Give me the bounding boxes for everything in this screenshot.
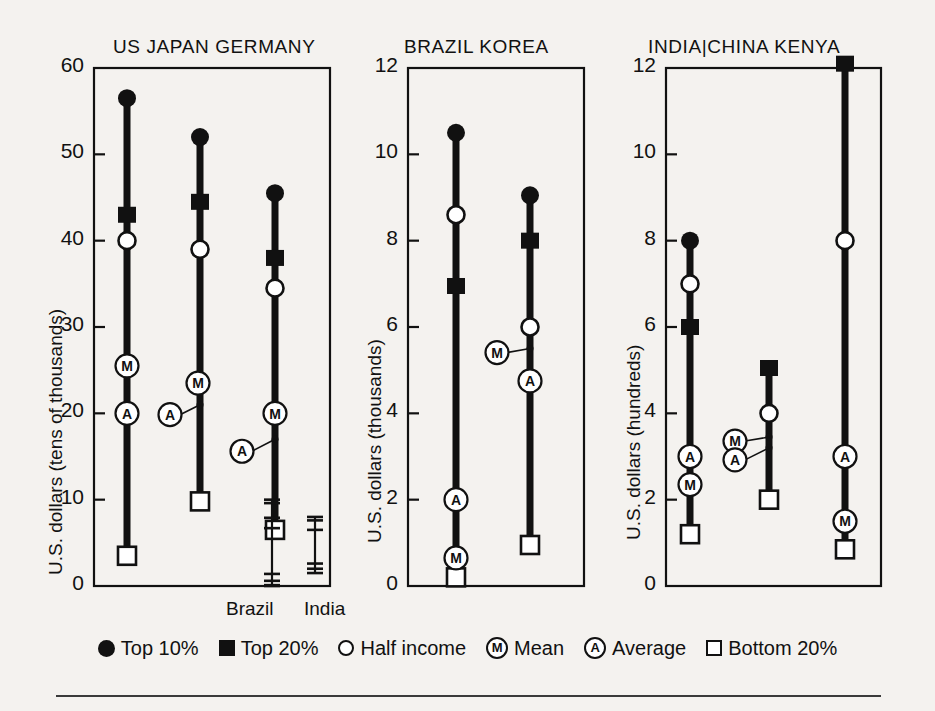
legend-label-mean: Mean	[514, 637, 564, 660]
legend-item-top-10: Top 10%	[98, 637, 199, 660]
marker-bottom-20	[760, 491, 778, 509]
letter-m-icon: M	[486, 637, 508, 659]
y-tick-label: 20	[32, 398, 84, 422]
marker-top-10	[118, 89, 136, 107]
marker-bottom-20	[447, 568, 465, 586]
legend-label-bottom-20: Bottom 20%	[728, 637, 837, 660]
y-tick-label: 0	[32, 571, 84, 595]
marker-half-income	[119, 232, 136, 249]
series-group-korea: MA	[486, 186, 542, 554]
marker-top-10	[266, 184, 284, 202]
y-tick-label: 50	[32, 139, 84, 163]
marker-top-20	[681, 319, 699, 335]
panel-1-title: US JAPAN GERMANY	[113, 36, 315, 58]
panel-2-plot-frame	[408, 68, 584, 586]
legend-label-average: Average	[612, 637, 686, 660]
legend-item-bottom-20: Bottom 20%	[706, 637, 837, 660]
marker-average-label: A	[122, 406, 132, 422]
marker-half-income	[448, 206, 465, 223]
legend: Top 10% Top 20% Half income M Mean A Ave…	[0, 628, 935, 668]
marker-half-income	[682, 275, 699, 292]
marker-top-20	[836, 56, 854, 72]
series-group-china: MA	[724, 360, 779, 509]
marker-average-label: A	[237, 443, 247, 459]
marker-half-income	[267, 280, 284, 297]
marker-top-10	[447, 124, 465, 142]
series-group-japan: MA	[159, 128, 210, 510]
y-tick-label: 10	[32, 485, 84, 509]
legend-item-top-20: Top 20%	[219, 637, 319, 660]
y-tick-label: 2	[346, 485, 398, 509]
marker-bottom-20	[118, 547, 136, 565]
marker-mean-label: M	[450, 550, 462, 566]
mini-scale-label-india: India	[304, 598, 345, 620]
mini-scale-label-brazil: Brazil	[226, 598, 274, 620]
marker-mean-label: M	[491, 345, 503, 361]
legend-label-top-10: Top 10%	[121, 637, 199, 660]
marker-bottom-20	[681, 525, 699, 543]
panel-2-title: BRAZIL KOREA	[404, 36, 549, 58]
panel-1: MAMAMA	[94, 68, 330, 586]
marker-mean-label: M	[121, 358, 133, 374]
marker-bottom-20	[521, 536, 539, 554]
marker-average-label: A	[730, 452, 740, 468]
marker-half-income	[761, 405, 778, 422]
y-tick-label: 40	[32, 226, 84, 250]
y-tick-label: 12	[604, 53, 656, 77]
marker-top-20	[118, 207, 136, 223]
marker-average-label: A	[451, 492, 461, 508]
panel-3: MAMAMA	[666, 56, 881, 586]
y-tick-label: 30	[32, 312, 84, 336]
marker-average-label: A	[165, 407, 175, 423]
square-open-icon	[706, 640, 722, 656]
y-tick-label: 10	[604, 139, 656, 163]
y-tick-label: 6	[346, 312, 398, 336]
legend-item-average: A Average	[584, 637, 686, 660]
series-group-brazil: MA	[445, 124, 468, 587]
marker-half-income	[192, 241, 209, 258]
marker-top-10	[191, 128, 209, 146]
mini-scale-bar-1	[307, 517, 323, 573]
marker-mean-label: M	[729, 433, 741, 449]
marker-top-20	[760, 360, 778, 376]
marker-top-20	[266, 250, 284, 266]
series-group-india: MA	[679, 232, 702, 544]
y-tick-label: 6	[604, 312, 656, 336]
circle-open-icon	[338, 640, 354, 656]
panel-3-title: INDIA|CHINA KENYA	[648, 36, 840, 58]
marker-bottom-20	[266, 521, 284, 539]
marker-top-20	[447, 278, 465, 294]
marker-mean-label: M	[839, 513, 851, 529]
circle-filled-icon	[98, 640, 115, 657]
marker-top-20	[191, 194, 209, 210]
panel-2: MAMA	[408, 68, 584, 586]
marker-bottom-20	[191, 492, 209, 510]
y-tick-label: 8	[346, 226, 398, 250]
series-group-kenya: MA	[834, 56, 857, 559]
leader-line	[745, 437, 769, 441]
marker-mean-label: M	[269, 406, 281, 422]
leader-line	[745, 448, 769, 460]
marker-top-10	[521, 186, 539, 204]
marker-half-income	[837, 232, 854, 249]
marker-average-label: A	[525, 373, 535, 389]
y-tick-label: 0	[346, 571, 398, 595]
marker-average-label: A	[685, 449, 695, 465]
y-tick-label: 2	[604, 485, 656, 509]
y-tick-label: 0	[604, 571, 656, 595]
y-tick-label: 60	[32, 53, 84, 77]
legend-label-top-20: Top 20%	[241, 637, 319, 660]
marker-top-20	[521, 233, 539, 249]
marker-top-10	[681, 232, 699, 250]
legend-item-mean: M Mean	[486, 637, 564, 660]
legend-item-half-income: Half income	[338, 637, 466, 660]
marker-bottom-20	[836, 540, 854, 558]
y-tick-label: 4	[604, 398, 656, 422]
marker-average-label: A	[840, 449, 850, 465]
y-tick-label: 8	[604, 226, 656, 250]
panel-1-y-axis-label: U.S. dollars (tens of thousands)	[45, 309, 67, 575]
letter-a-icon: A	[584, 637, 606, 659]
legend-label-half-income: Half income	[360, 637, 466, 660]
marker-half-income	[522, 319, 539, 336]
y-tick-label: 12	[346, 53, 398, 77]
